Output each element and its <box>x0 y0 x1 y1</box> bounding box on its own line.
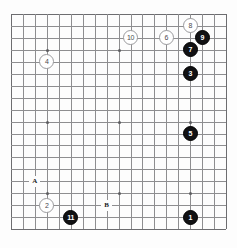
stone-black-9[interactable]: 9 <box>195 30 210 45</box>
grid-line-horizontal <box>11 181 226 182</box>
stone-black-1[interactable]: 1 <box>183 210 198 225</box>
point-marker-a[interactable]: A <box>29 176 40 187</box>
star-point <box>118 192 121 195</box>
grid-line-vertical <box>226 14 227 229</box>
grid-line-vertical <box>202 14 203 229</box>
grid-line-vertical <box>154 14 155 229</box>
star-point <box>46 121 49 124</box>
point-marker-b[interactable]: B <box>101 200 112 211</box>
star-point <box>46 49 49 52</box>
grid-line-horizontal <box>11 145 226 146</box>
stone-black-5[interactable]: 5 <box>183 126 198 141</box>
star-point <box>118 49 121 52</box>
grid-line-vertical <box>178 14 179 229</box>
grid-line-horizontal <box>11 169 226 170</box>
stone-black-11[interactable]: 11 <box>63 210 78 225</box>
stone-black-3[interactable]: 3 <box>183 66 198 81</box>
go-board: 8910674352111 AB <box>0 0 237 248</box>
grid-line-vertical <box>166 14 167 229</box>
stone-white-2[interactable]: 2 <box>39 198 54 213</box>
grid-line-vertical <box>131 14 132 229</box>
grid-line-horizontal <box>11 157 226 158</box>
star-point <box>46 192 49 195</box>
grid-line-vertical <box>214 14 215 229</box>
star-point <box>189 121 192 124</box>
star-point <box>118 121 121 124</box>
grid-line-vertical <box>142 14 143 229</box>
star-point <box>189 192 192 195</box>
grid-line-horizontal <box>11 229 226 230</box>
